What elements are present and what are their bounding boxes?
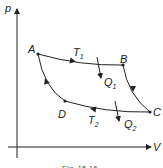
label-t1: T1 [73, 46, 84, 60]
label-d: D [58, 108, 66, 120]
adiabat-bc [123, 65, 150, 112]
label-a: A [27, 43, 35, 55]
point-a [36, 52, 39, 55]
label-q1: Q1 [104, 76, 117, 90]
label-b: B [120, 53, 127, 65]
heat-in-arrow [97, 57, 101, 78]
label-t2: T2 [88, 114, 99, 128]
label-c: C [153, 106, 161, 118]
arrow-ab-icon [70, 58, 77, 65]
arrow-cd-icon [90, 106, 97, 113]
figure-caption: Fig. 15.16 [62, 164, 98, 168]
adiabat-da [38, 54, 65, 101]
point-c [148, 110, 151, 113]
x-axis-label: V [153, 141, 162, 153]
point-d [63, 99, 66, 102]
label-q2: Q2 [124, 118, 137, 132]
y-axis-label: p [4, 2, 11, 14]
isotherm-cd [65, 101, 150, 112]
carnot-pv-diagram: p V A B C D T1 T2 Q1 Q2 Fig. 15.16 [0, 0, 163, 168]
